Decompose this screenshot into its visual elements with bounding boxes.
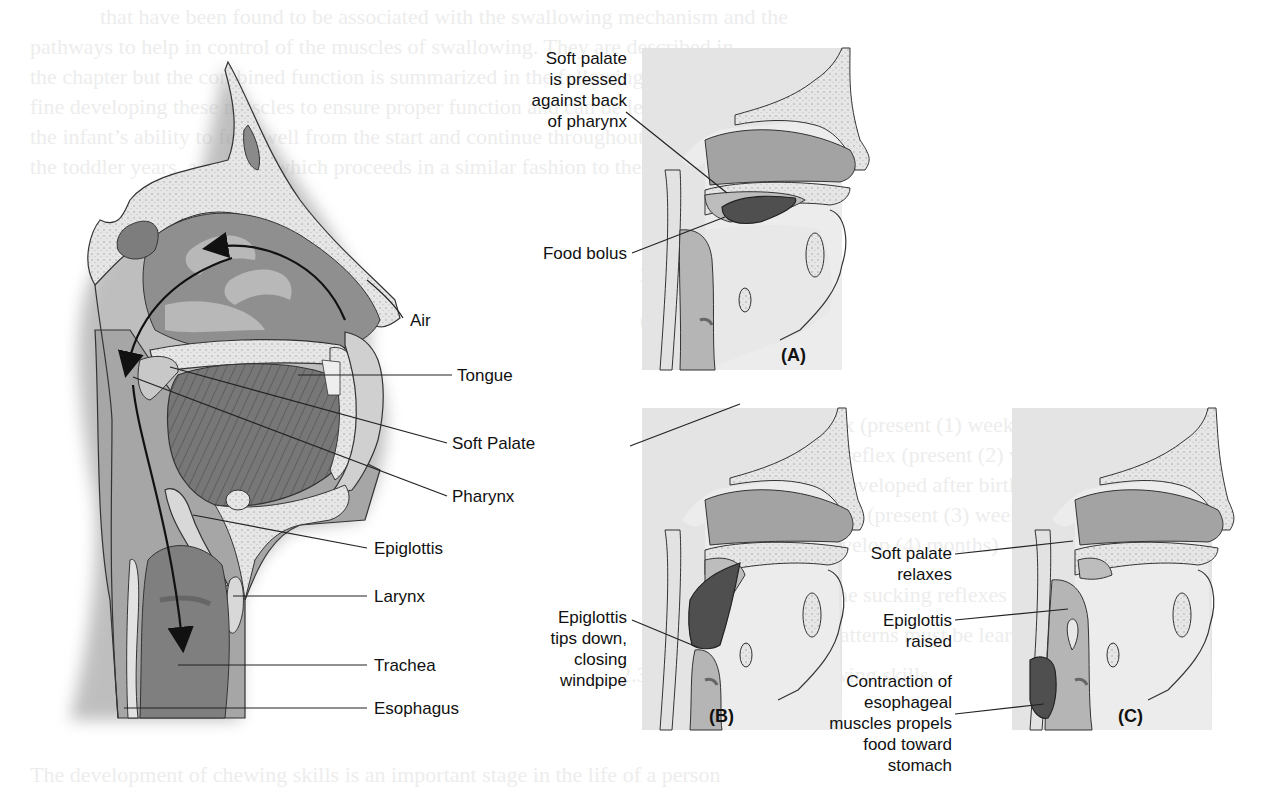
- label-c-epiglottis: Epiglottis raised: [820, 610, 952, 652]
- label-pharynx: Pharynx: [452, 486, 514, 507]
- panel-b-letter: (B): [709, 706, 734, 727]
- label-line: against back: [520, 90, 627, 111]
- label-line: Epiglottis: [520, 607, 627, 628]
- label-line: closing: [520, 649, 627, 670]
- panel-a-letter: (A): [781, 345, 806, 366]
- label-line: food toward: [800, 734, 952, 755]
- label-epiglottis: Epiglottis: [374, 538, 443, 559]
- label-c-soft-palate: Soft palate relaxes: [820, 543, 952, 585]
- label-c-contraction: Contraction of esophageal muscles propel…: [800, 671, 952, 776]
- label-line: esophageal: [800, 692, 952, 713]
- panel-c-letter: (C): [1118, 706, 1143, 727]
- diagram-artwork: [0, 0, 1279, 792]
- label-line: muscles propels: [800, 713, 952, 734]
- label-trachea: Trachea: [374, 655, 436, 676]
- label-esophagus: Esophagus: [374, 698, 459, 719]
- label-line: Soft palate: [520, 48, 627, 69]
- label-line: is pressed: [520, 69, 627, 90]
- label-line: stomach: [800, 755, 952, 776]
- main-head-section: [70, 62, 400, 720]
- label-line: Contraction of: [800, 671, 952, 692]
- panel-c-artwork: [955, 408, 1234, 730]
- label-soft-palate: Soft Palate: [452, 433, 535, 454]
- label-larynx: Larynx: [374, 586, 425, 607]
- label-air: Air: [410, 310, 431, 331]
- label-line: windpipe: [520, 670, 627, 691]
- label-line: Soft palate: [820, 543, 952, 564]
- label-a-soft-palate: Soft palate is pressed against back of p…: [520, 48, 627, 132]
- label-line: of pharynx: [520, 111, 627, 132]
- label-line: tips down,: [520, 628, 627, 649]
- label-line: relaxes: [820, 564, 952, 585]
- label-line: raised: [820, 631, 952, 652]
- label-b-epiglottis: Epiglottis tips down, closing windpipe: [520, 607, 627, 691]
- panel-a-artwork: [626, 48, 869, 370]
- label-line: Epiglottis: [820, 610, 952, 631]
- label-tongue: Tongue: [457, 365, 513, 386]
- label-a-food-bolus: Food bolus: [520, 243, 627, 264]
